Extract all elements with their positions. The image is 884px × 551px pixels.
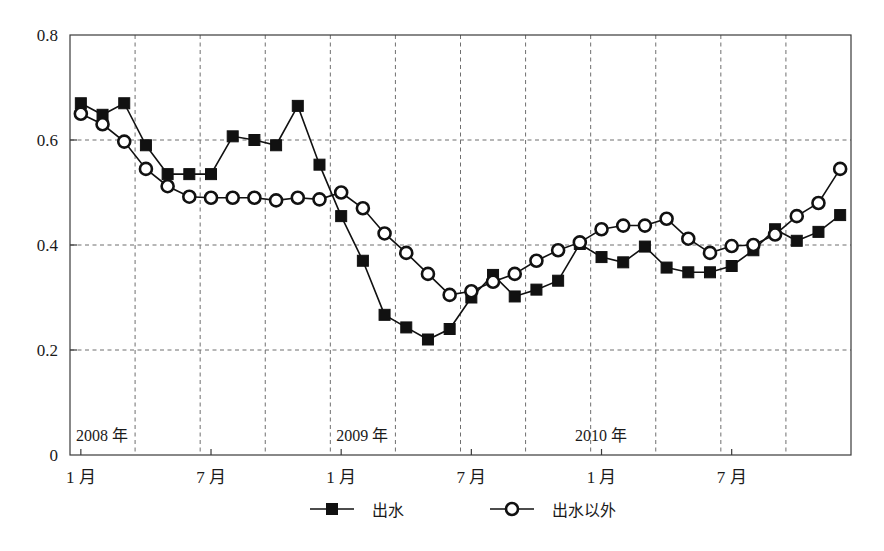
data-point-marker-square [227, 131, 238, 142]
data-point-marker-circle [726, 240, 738, 252]
data-point-marker-square [336, 211, 347, 222]
data-point-marker-circle [465, 285, 477, 297]
chart-figure: 00.20.40.60.8 1 月7 月1 月7 月1 月7 月 2008 年2… [0, 0, 884, 551]
data-point-marker-square [683, 267, 694, 278]
data-point-marker-circle [704, 247, 716, 259]
data-point-marker-square [206, 169, 217, 180]
data-point-marker-circle [487, 276, 499, 288]
year-annotation-label: 2010 年 [575, 427, 627, 444]
data-point-marker-circle [292, 192, 304, 204]
year-annotations: 2008 年2009 年2010 年 [76, 427, 627, 444]
legend-marker-square [327, 504, 338, 515]
data-point-marker-square [292, 100, 303, 111]
data-point-marker-circle [248, 192, 260, 204]
data-point-marker-circle [97, 118, 109, 130]
data-point-marker-square [422, 334, 433, 345]
data-point-marker-circle [422, 268, 434, 280]
data-point-marker-square [444, 324, 455, 335]
data-point-marker-square [618, 257, 629, 268]
x-axis-tick-label: 7 月 [196, 468, 226, 487]
data-point-marker-square [184, 169, 195, 180]
data-point-marker-square [162, 169, 173, 180]
data-point-marker-square [553, 275, 564, 286]
data-point-marker-square [271, 140, 282, 151]
y-axis-tick-label: 0.2 [37, 341, 58, 360]
data-point-marker-circle [682, 233, 694, 245]
data-point-marker-square [726, 261, 737, 272]
data-point-marker-circle [552, 244, 564, 256]
x-axis-tick-labels: 1 月7 月1 月7 月1 月7 月 [66, 468, 747, 487]
y-axis-tick-label: 0.6 [37, 131, 58, 150]
legend-marker-circle [506, 503, 518, 515]
x-axis-tick-label: 1 月 [66, 468, 96, 487]
data-point-marker-circle [509, 268, 521, 280]
data-point-marker-square [249, 135, 260, 146]
data-point-marker-circle [639, 220, 651, 232]
data-point-marker-circle [812, 197, 824, 209]
data-point-marker-circle [227, 192, 239, 204]
legend-entry-label: 出水 [372, 502, 404, 519]
data-point-marker-circle [205, 192, 217, 204]
data-point-marker-circle [530, 255, 542, 267]
data-point-marker-square [314, 159, 325, 170]
data-point-marker-square [531, 284, 542, 295]
legend-entry-label: 出水以外 [552, 502, 616, 519]
y-axis-tick-label: 0 [50, 446, 59, 465]
y-axis-tick-label: 0.4 [37, 236, 59, 255]
data-point-marker-square [661, 262, 672, 273]
data-point-marker-circle [313, 193, 325, 205]
year-annotation-label: 2008 年 [76, 427, 128, 444]
data-point-marker-circle [118, 136, 130, 148]
data-point-marker-square [704, 267, 715, 278]
data-point-marker-circle [140, 163, 152, 175]
x-axis-tick-label: 7 月 [717, 468, 747, 487]
year-annotation-label: 2009 年 [336, 427, 388, 444]
data-point-marker-square [791, 235, 802, 246]
y-axis-tick-labels: 00.20.40.60.8 [37, 26, 59, 465]
data-point-marker-circle [335, 187, 347, 199]
line-chart: 00.20.40.60.8 1 月7 月1 月7 月1 月7 月 2008 年2… [0, 0, 884, 551]
series-polyline [81, 103, 840, 339]
x-axis-tick-label: 7 月 [456, 468, 486, 487]
x-axis-tick-label: 1 月 [326, 468, 356, 487]
legend-entry: 出水 [310, 502, 404, 519]
data-point-marker-circle [444, 289, 456, 301]
data-point-marker-circle [769, 229, 781, 241]
chart-legend: 出水出水以外 [310, 502, 616, 519]
data-point-marker-square [401, 322, 412, 333]
data-point-marker-circle [661, 213, 673, 225]
data-point-marker-circle [596, 223, 608, 235]
data-point-marker-square [813, 226, 824, 237]
data-point-marker-square [379, 309, 390, 320]
x-axis-tick-label: 1 月 [587, 468, 617, 487]
legend-entry: 出水以外 [490, 502, 616, 519]
data-point-marker-square [639, 241, 650, 252]
data-point-marker-square [357, 255, 368, 266]
data-point-marker-circle [162, 180, 174, 192]
data-point-marker-square [140, 140, 151, 151]
data-point-marker-circle [270, 194, 282, 206]
data-point-marker-circle [400, 247, 412, 259]
data-point-marker-square [596, 252, 607, 263]
data-point-marker-circle [834, 163, 846, 175]
data-point-marker-square [119, 98, 130, 109]
data-point-marker-circle [574, 236, 586, 248]
data-point-marker-circle [357, 202, 369, 214]
data-point-marker-square [835, 210, 846, 221]
data-point-marker-square [509, 291, 520, 302]
data-point-marker-circle [791, 210, 803, 222]
data-point-marker-circle [183, 191, 195, 203]
data-point-marker-circle [747, 239, 759, 251]
y-axis-tick-label: 0.8 [37, 26, 58, 45]
data-point-marker-circle [379, 227, 391, 239]
data-point-marker-circle [617, 220, 629, 232]
data-point-marker-circle [75, 108, 87, 120]
